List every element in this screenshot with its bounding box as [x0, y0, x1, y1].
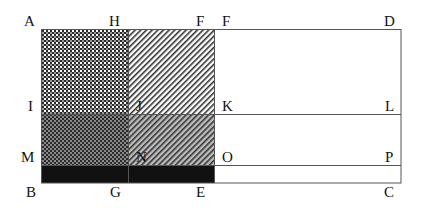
label-C: C	[384, 184, 394, 200]
region-MOEB-black-strip	[41, 165, 214, 183]
label-F-right: F	[222, 13, 230, 29]
label-J: J	[136, 98, 142, 114]
region-FDCE	[214, 29, 401, 183]
region-IJNM	[41, 114, 128, 165]
label-F-left: F	[196, 13, 204, 29]
label-B: B	[26, 184, 36, 200]
label-H: H	[109, 13, 120, 29]
label-O: O	[222, 149, 233, 165]
label-K: K	[222, 98, 233, 114]
geometry-diagram: A H F F D I J K L M N O P B G E C	[0, 0, 421, 212]
label-M: M	[21, 149, 34, 165]
label-E: E	[196, 184, 205, 200]
label-L: L	[385, 98, 394, 114]
label-N: N	[136, 149, 147, 165]
region-AHJI	[41, 29, 128, 114]
label-I: I	[28, 98, 33, 114]
label-A: A	[24, 13, 35, 29]
label-D: D	[384, 13, 395, 29]
label-G: G	[110, 184, 121, 200]
label-P: P	[385, 149, 393, 165]
